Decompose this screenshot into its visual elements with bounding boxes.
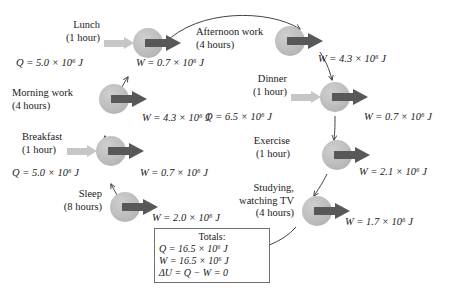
heat-label-dinner: Q = 6.5 × 10⁶ J [205, 111, 272, 124]
node-duration-afternoon-work: (4 hours) [196, 39, 263, 52]
work-arrow-lunch [145, 37, 181, 48]
node-duration-morning-work: (4 hours) [12, 100, 73, 113]
heat-arrow-lunch [104, 38, 134, 47]
work-label-exercise: W = 2.1 × 10⁶ J [359, 166, 427, 179]
heat-arrow-breakfast [67, 146, 97, 155]
work-arrow-afternoon-work [287, 35, 323, 46]
work-arrow-dinner [332, 91, 368, 102]
heat-label-breakfast: Q = 5.0 × 10⁶ J [12, 167, 79, 180]
totals-delta-u: ΔU = Q − W = 0 [159, 267, 265, 279]
node-name-watching-tv: watching TV [212, 195, 294, 208]
node-name-exercise: Exercise [228, 135, 290, 148]
work-arrow-breakfast [108, 145, 144, 156]
work-label-breakfast: W = 0.7 × 10⁶ J [140, 167, 208, 180]
node-duration-breakfast: (1 hour) [22, 144, 62, 157]
work-label-morning-work: W = 4.3 × 10⁶ J [142, 112, 210, 125]
heat-label-lunch: Q = 5.0 × 10⁶ J [16, 57, 83, 70]
work-label-afternoon-work: W = 4.3 × 10⁶ J [318, 53, 386, 66]
node-label-morning-work: Morning work (4 hours) [12, 87, 73, 112]
work-arrow-studying-watching-tv [314, 205, 350, 216]
arrow-exercise-to-studying [314, 174, 327, 196]
node-label-breakfast: Breakfast (1 hour) [22, 131, 62, 156]
node-duration-dinner: (1 hour) [225, 86, 287, 99]
node-name-lunch: Lunch [34, 19, 100, 32]
work-label-dinner: W = 0.7 × 10⁶ J [364, 111, 432, 124]
totals-box: Totals: Q = 16.5 × 10⁶ J W = 16.5 × 10⁶ … [154, 228, 270, 283]
node-label-afternoon-work: Afternoon work (4 hours) [196, 26, 263, 51]
work-label-studying-watching-tv: W = 1.7 × 10⁶ J [345, 216, 413, 229]
node-name-breakfast: Breakfast [22, 131, 62, 144]
node-name-studying: Studying, [212, 182, 294, 195]
node-name-sleep: Sleep [28, 188, 102, 201]
work-arrow-exercise [334, 149, 370, 160]
node-duration-sleep: (8 hours) [28, 201, 102, 214]
node-name-afternoon-work: Afternoon work [196, 26, 263, 39]
node-label-studying-watching-tv: Studying, watching TV (4 hours) [212, 182, 294, 220]
node-label-sleep: Sleep (8 hours) [28, 188, 102, 213]
work-arrow-morning-work [111, 93, 147, 104]
node-duration-lunch: (1 hour) [34, 32, 100, 45]
heat-arrow-dinner [291, 92, 321, 101]
energy-cycle-diagram: Lunch (1 hour) Q = 5.0 × 10⁶ J W = 0.7 ×… [0, 0, 456, 292]
totals-work: W = 16.5 × 10⁶ J [159, 255, 265, 267]
totals-heading: Totals: [159, 231, 265, 243]
node-name-morning-work: Morning work [12, 87, 73, 100]
work-label-lunch: W = 0.7 × 10⁶ J [136, 57, 204, 70]
work-label-sleep: W = 2.0 × 10⁶ J [152, 212, 220, 225]
node-label-exercise: Exercise (1 hour) [228, 135, 290, 160]
work-arrow-sleep [122, 201, 158, 212]
arrow-dinner-to-exercise [334, 116, 335, 140]
node-label-dinner: Dinner (1 hour) [225, 73, 287, 98]
node-label-lunch: Lunch (1 hour) [34, 19, 100, 44]
node-duration-studying-watching-tv: (4 hours) [212, 207, 294, 220]
totals-heat: Q = 16.5 × 10⁶ J [159, 243, 265, 255]
node-name-dinner: Dinner [225, 73, 287, 86]
node-duration-exercise: (1 hour) [228, 148, 290, 161]
